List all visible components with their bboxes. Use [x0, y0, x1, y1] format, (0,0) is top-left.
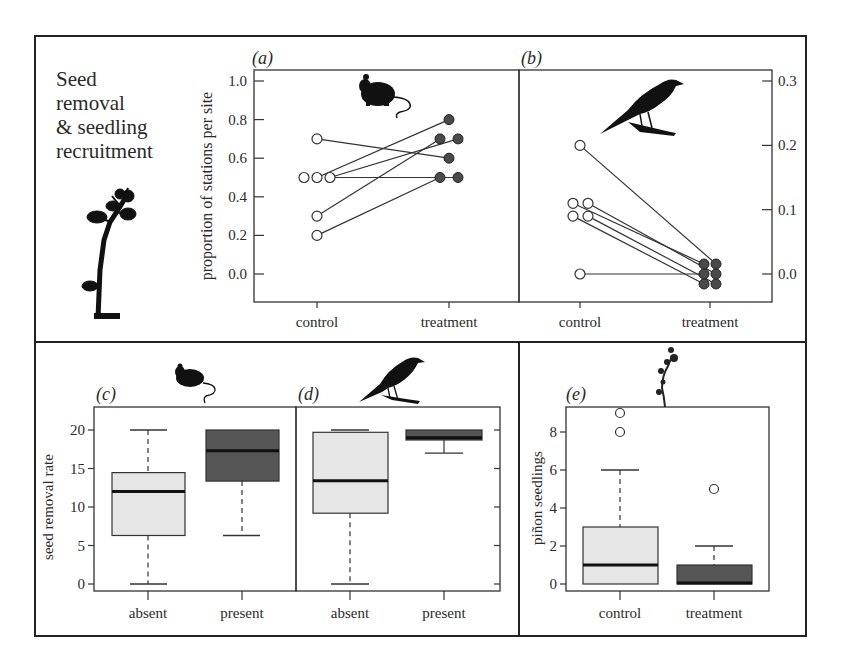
box-d-absent	[313, 430, 388, 584]
plot-c-yaxis	[88, 430, 94, 584]
plot-a-ytick-labels: 0.0 0.2 0.4 0.6 0.8 1.0	[228, 73, 247, 282]
svg-text:8: 8	[550, 424, 558, 440]
svg-text:4: 4	[550, 500, 558, 516]
box-c-absent	[112, 430, 185, 584]
plot-a-xtick-treatment: treatment	[421, 314, 478, 330]
panel-b-label: (b)	[521, 48, 542, 69]
svg-text:20: 20	[70, 422, 85, 438]
plot-c-ylabel: seed removal rate	[40, 454, 56, 560]
plot-a-treatment-points	[435, 115, 463, 183]
panel-d-label: (d)	[298, 384, 319, 405]
panel-a: (a) 0.0 0.2 0.4 0.6 0.8 1.0 proportion o…	[198, 48, 519, 330]
plot-b-ytick-labels: 0.0 0.1 0.2 0.3	[778, 73, 797, 282]
svg-text:1.0: 1.0	[228, 73, 247, 89]
mouse-icon	[359, 74, 410, 118]
svg-text:& seedling: & seedling	[56, 115, 148, 139]
panel-c-label: (c)	[96, 384, 116, 405]
plot-e-yaxis	[560, 432, 566, 584]
svg-text:0.8: 0.8	[228, 112, 247, 128]
svg-text:Seed: Seed	[56, 67, 97, 91]
intro-title: Seed removal & seedling recruitment	[56, 67, 153, 163]
box-c-present	[206, 430, 279, 536]
svg-text:10: 10	[70, 499, 85, 515]
plot-b-lines	[573, 145, 716, 284]
panel-a-label: (a)	[252, 48, 273, 69]
plot-a-yaxis	[254, 81, 264, 274]
svg-text:0.2: 0.2	[228, 227, 247, 243]
svg-text:0.0: 0.0	[228, 266, 247, 282]
plot-b-control-points	[568, 140, 593, 279]
svg-text:15: 15	[70, 461, 85, 477]
svg-text:0.3: 0.3	[778, 73, 797, 89]
pinyon-tree-icon	[82, 188, 136, 319]
plot-a-control-points	[299, 134, 335, 241]
plot-b-treatment-points	[699, 259, 721, 289]
svg-text:0: 0	[550, 576, 558, 592]
panel-e: (e) 0 2 4 6 8 piñon seedlings control tr…	[529, 347, 769, 621]
figure-frame	[35, 36, 806, 636]
svg-text:0.1: 0.1	[778, 202, 797, 218]
plot-e-ytick-labels: 0 2 4 6 8	[550, 424, 558, 592]
plot-c-xtick-absent: absent	[129, 605, 168, 621]
plot-e-ylabel: piñon seedlings	[529, 451, 545, 545]
plot-e-xtick-control: control	[599, 605, 642, 621]
svg-text:6: 6	[550, 462, 558, 478]
bird-icon	[600, 80, 684, 137]
svg-text:0: 0	[78, 576, 86, 592]
box-e-treatment	[677, 485, 752, 585]
plot-c-xtick-present: present	[220, 605, 264, 621]
plot-d-yaxis	[494, 430, 500, 584]
plot-d-xtick-present: present	[422, 605, 466, 621]
box-d-present	[406, 430, 482, 453]
box-e-control	[583, 409, 658, 585]
panel-b: (b) 0.0 0.1 0.2 0.3 control treatment	[519, 48, 797, 330]
panel-e-label: (e)	[566, 384, 586, 405]
bird-icon	[359, 358, 425, 405]
svg-text:2: 2	[550, 538, 558, 554]
plot-d-xtick-absent: absent	[331, 605, 370, 621]
plot-a-ylabel: proportion of stations per site	[198, 92, 216, 280]
panel-d: (d) absent present	[296, 358, 500, 622]
svg-text:0.6: 0.6	[228, 150, 247, 166]
plot-e-xtick-treatment: treatment	[686, 605, 743, 621]
plot-b-yaxis	[762, 81, 772, 274]
panel-c: (c) 0 5 10 15 20 seed removal rate absen…	[40, 364, 296, 622]
svg-text:recruitment: recruitment	[56, 139, 153, 163]
svg-text:0.2: 0.2	[778, 137, 797, 153]
svg-text:removal: removal	[56, 91, 125, 115]
figure: Seed removal & seedling recruitment (a) …	[0, 0, 842, 663]
seedling-icon	[656, 347, 678, 407]
mouse-icon	[175, 364, 215, 404]
plot-a-xtick-control: control	[296, 314, 339, 330]
svg-text:0.4: 0.4	[228, 189, 247, 205]
svg-text:0.0: 0.0	[778, 266, 797, 282]
svg-text:5: 5	[78, 538, 86, 554]
plot-b-xtick-control: control	[559, 314, 602, 330]
plot-c-ytick-labels: 0 5 10 15 20	[70, 422, 85, 592]
plot-b-xtick-treatment: treatment	[682, 314, 739, 330]
